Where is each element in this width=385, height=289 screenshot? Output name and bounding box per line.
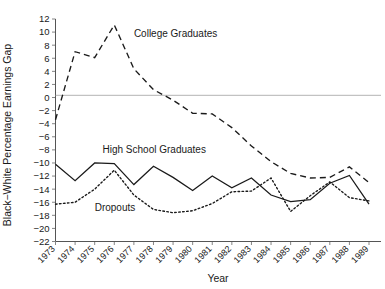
y-tick-label: 0	[44, 92, 49, 103]
x-tick-label: 1981	[192, 244, 213, 265]
series-label-college-graduates: College Graduates	[134, 28, 217, 39]
x-tick-label: 1984	[251, 244, 272, 265]
data-series-group	[56, 25, 370, 213]
x-tick-label: 1978	[134, 244, 155, 265]
x-axis-tick-labels: 1973197419751976197719781979198019811982…	[36, 244, 371, 265]
x-tick-label: 1983	[232, 244, 253, 265]
x-tick-label: 1976	[94, 244, 115, 265]
x-axis-tick-marks	[56, 242, 370, 246]
x-tick-label: 1975	[75, 244, 96, 265]
series-line-high-school-graduates	[56, 163, 370, 204]
y-tick-label: −4	[39, 118, 50, 129]
x-tick-label: 1982	[212, 244, 233, 265]
x-tick-label: 1974	[55, 244, 76, 265]
x-tick-label: 1980	[173, 244, 194, 265]
x-tick-label: 1985	[271, 244, 292, 265]
y-tick-label: −8	[39, 144, 50, 155]
x-tick-label: 1987	[310, 244, 331, 265]
y-axis-tick-marks	[52, 19, 56, 242]
y-tick-label: −20	[33, 223, 49, 234]
y-tick-label: −6	[39, 131, 50, 142]
x-tick-label: 1989	[349, 244, 370, 265]
series-label-high-school-graduates: High School Graduates	[103, 144, 206, 155]
y-tick-label: −12	[33, 170, 49, 181]
y-axis-tick-labels: 121086420−2−4−6−8−10−12−14−16−18−20−22	[33, 13, 49, 247]
y-tick-label: 12	[39, 13, 50, 24]
y-tick-label: −16	[33, 197, 49, 208]
x-tick-label: 1977	[114, 244, 135, 265]
y-axis-title-group: Black−White Percentage Earnings Gap	[1, 44, 13, 227]
y-tick-label: −14	[33, 184, 49, 195]
series-label-dropouts: Dropouts	[95, 202, 136, 213]
y-tick-label: 6	[44, 53, 49, 64]
x-tick-label: 1986	[290, 244, 311, 265]
line-chart: Black−White Percentage Earnings Gap 1210…	[0, 0, 385, 289]
x-tick-label: 1988	[330, 244, 351, 265]
series-line-college-graduates	[56, 25, 370, 183]
x-tick-label: 1979	[153, 244, 174, 265]
y-tick-label: 4	[44, 66, 49, 77]
y-tick-label: 2	[44, 79, 49, 90]
y-tick-label: −18	[33, 210, 49, 221]
y-axis-title: Black−White Percentage Earnings Gap	[1, 44, 13, 227]
chart-container: Black−White Percentage Earnings Gap 1210…	[0, 0, 385, 289]
x-axis-title: Year	[207, 272, 229, 284]
y-tick-label: 10	[39, 26, 50, 37]
y-tick-label: −2	[39, 105, 50, 116]
y-tick-label: 8	[44, 40, 49, 51]
x-tick-label: 1973	[36, 244, 57, 265]
y-tick-label: −10	[33, 157, 49, 168]
